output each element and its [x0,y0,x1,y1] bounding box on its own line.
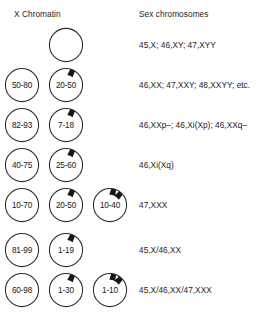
nucleus-circle-icon [5,148,38,181]
nucleus-cell: 1-10 [92,272,128,308]
nucleus-circle-icon [49,233,82,266]
nucleus-cell: 20-50 [48,67,84,103]
nucleus-circle-icon [49,108,82,141]
nucleus-circle-icon [5,273,38,306]
nucleus-cell: 60-98 [4,272,40,308]
karyotype-label: 47,XXX [139,200,167,210]
nucleus-cell: 20-50 [48,187,84,223]
nucleus-circle-icon [5,188,38,221]
karyotype-label: 45,X; 46,XY; 47,XYY [139,40,216,50]
nucleus-circle-icon [49,148,82,181]
x-chromatin-figure: X Chromatin Sex chromosomes 45,X; 46,XY;… [0,0,274,313]
nucleus-cell: 1-30 [48,272,84,308]
nucleus-cell: 40-75 [4,147,40,183]
nucleus-circle-icon [49,28,82,61]
nucleus-cell: 25-60 [48,147,84,183]
nucleus-cell: 1-19 [48,232,84,268]
nucleus-circle-icon [49,273,82,306]
nucleus-cell: 10-40 [92,187,128,223]
nucleus-cell: 10-70 [4,187,40,223]
nucleus-cell: 50-80 [4,67,40,103]
nucleus-circle-icon [49,188,82,221]
nucleus-cell: 7-18 [48,107,84,143]
karyotype-label: 46,Xi(Xq) [139,160,174,170]
nucleus-circle-icon [5,233,38,266]
karyotype-label: 45,X/46,XX [139,245,181,255]
nucleus-circle-icon [5,68,38,101]
nucleus-cell: 82-93 [4,107,40,143]
nucleus-cell [48,27,84,63]
column-header-sex-chromosomes: Sex chromosomes [139,9,208,19]
karyotype-label: 46,XXp–; 46,Xi(Xp); 46,XXq– [139,120,247,130]
column-header-x-chromatin: X Chromatin [14,9,61,19]
karyotype-label: 45,X/46,XX/47,XXX [139,285,212,295]
nucleus-cell: 81-99 [4,232,40,268]
nucleus-circle-icon [5,108,38,141]
karyotype-label: 46,XX; 47,XXY; 48,XXYY; etc. [139,80,250,90]
nucleus-circle-icon [49,68,82,101]
